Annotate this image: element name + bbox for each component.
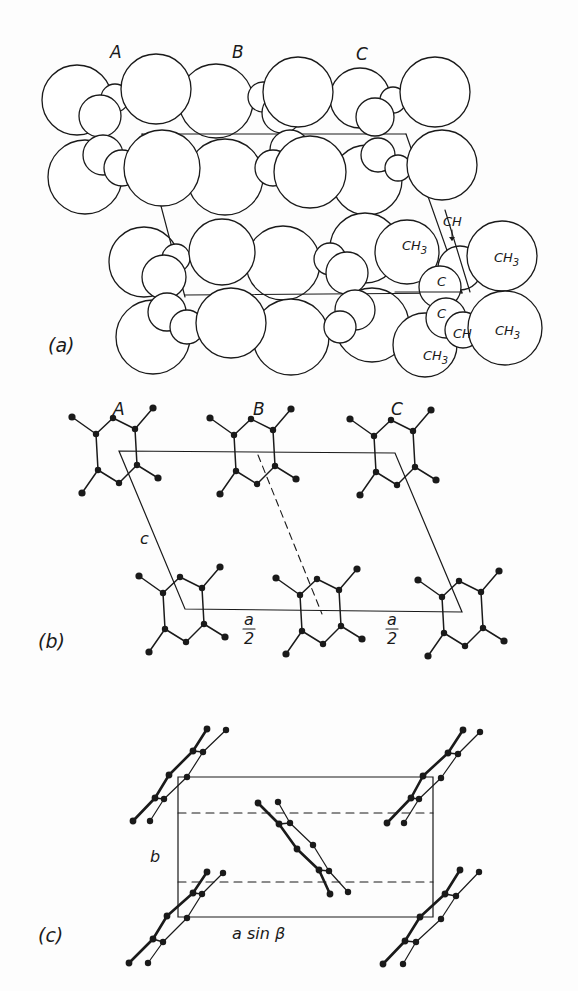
ring-atom (231, 432, 237, 438)
atom (166, 772, 173, 779)
bond-near (129, 939, 153, 963)
ring-atom (254, 481, 260, 487)
ring-atom (132, 426, 138, 432)
bond-far (456, 872, 479, 896)
atom (147, 818, 153, 824)
methyl-sphere (124, 130, 200, 206)
ring-atom (478, 589, 484, 595)
atom (438, 775, 444, 781)
subscript: 3 (421, 245, 427, 256)
bond (360, 472, 376, 495)
ring-atom (462, 643, 468, 649)
methyl-atom (272, 574, 279, 581)
ring-atom (412, 464, 418, 470)
bond (139, 576, 163, 593)
molecule-edge-on-2 (255, 799, 352, 898)
atom (161, 796, 167, 802)
atom (126, 960, 133, 967)
bond (428, 633, 444, 656)
atom (442, 891, 449, 898)
atom (152, 795, 159, 802)
crystal-structure-figure: CHCH3CH3CCCHCH3CH3ABC(a) ABCca2a2(b) ba … (0, 0, 578, 991)
axis-label-a-sin-beta: a sin β (232, 924, 285, 943)
atom (402, 938, 409, 945)
methyl-atom (287, 405, 294, 412)
ring-atom (199, 585, 205, 591)
atom (199, 891, 205, 897)
bond-far (458, 732, 480, 754)
bond (220, 471, 236, 494)
ring-atom (336, 587, 342, 593)
bond (98, 470, 119, 483)
atom (460, 727, 467, 734)
bond-near (387, 798, 411, 823)
atom (384, 820, 391, 827)
bond (465, 628, 483, 646)
bond-near (155, 775, 169, 798)
panel-b-ac-projection: ABCca2a2(b) (38, 399, 508, 660)
bond (300, 595, 302, 631)
atom-label-c: C (437, 274, 447, 289)
methyl-atom (353, 565, 360, 572)
methyl-sphere (253, 299, 329, 375)
molecule-label-a: A (112, 399, 125, 419)
bond (341, 626, 362, 639)
atom-label-c: C (437, 306, 447, 321)
bond (397, 467, 415, 485)
methyl-atom (145, 648, 152, 655)
bond (442, 597, 444, 633)
bond (96, 418, 113, 434)
bond (236, 471, 257, 484)
ring-atom (439, 594, 445, 600)
methyl-atom (216, 490, 223, 497)
ring-atom (162, 626, 168, 632)
bond-far (416, 919, 441, 942)
bond (275, 466, 296, 479)
bond (302, 631, 323, 644)
bond-near (411, 776, 423, 798)
atom (327, 891, 334, 898)
atom (380, 961, 387, 968)
methyl-sphere (179, 64, 253, 138)
methyl-atom (427, 406, 434, 413)
bond (180, 577, 202, 588)
ring-atom (297, 592, 303, 598)
atom (345, 889, 351, 895)
methyl-atom (282, 650, 289, 657)
molecule-label-c: C (356, 44, 368, 64)
bond (391, 420, 413, 431)
atom (223, 727, 229, 733)
carbon-sphere (142, 255, 186, 299)
atom (316, 867, 323, 874)
bond (202, 588, 204, 624)
bond (339, 590, 341, 626)
ring-atom (338, 623, 344, 629)
atom (417, 914, 424, 921)
methyl-atom (414, 576, 421, 583)
ring-atom (394, 482, 400, 488)
methyl-atom (154, 474, 161, 481)
unit-cell-outline (178, 777, 433, 917)
molecule-4 (272, 565, 365, 657)
axis-label-b: b (150, 847, 160, 866)
bond (251, 419, 273, 430)
ring-atom (177, 574, 183, 580)
ring-atom (441, 630, 447, 636)
methyl-sphere (189, 219, 255, 285)
atom (204, 726, 211, 733)
bond-near (405, 917, 420, 941)
fraction-label-a-over-2: a2 (243, 610, 255, 648)
atom (200, 749, 206, 755)
methyl-atom (500, 637, 507, 644)
subscript: 3 (514, 330, 520, 341)
atom (408, 795, 415, 802)
bond (137, 465, 158, 478)
bond (96, 434, 98, 470)
atom (326, 868, 332, 874)
bond (113, 418, 135, 429)
bond (82, 470, 98, 493)
bond-near (448, 730, 463, 753)
atom (255, 800, 262, 807)
atom (190, 748, 197, 755)
methyl-atom (68, 413, 75, 420)
